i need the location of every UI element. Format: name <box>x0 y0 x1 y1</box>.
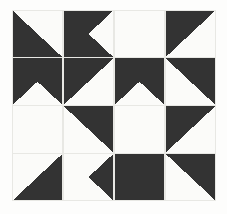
pinwheel-pattern-frame <box>12 10 216 201</box>
artwork-canvas <box>0 0 227 214</box>
pinwheel-pattern-svg <box>12 10 216 201</box>
